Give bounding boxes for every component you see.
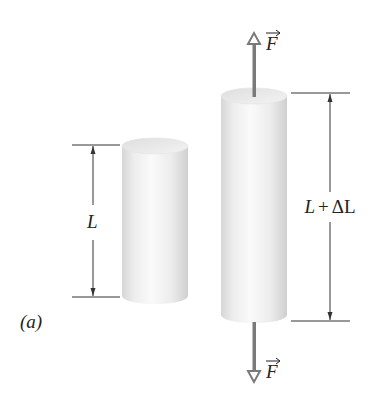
force-arrow-up xyxy=(248,33,260,97)
force-arrow-down xyxy=(248,322,260,382)
svg-text:F: F xyxy=(265,361,278,382)
length-L-plus-delta-L-label: L+ΔL xyxy=(303,196,355,217)
length-L-label: L xyxy=(86,211,98,232)
long-cylinder xyxy=(221,88,287,323)
panel-label: (a) xyxy=(20,311,42,333)
force-label-bottom: F xyxy=(265,358,280,382)
force-label-top: F xyxy=(265,30,280,54)
short-cylinder xyxy=(122,138,188,304)
stretching-cylinder-diagram: L L+ΔL F F (a) xyxy=(0,0,383,406)
svg-text:F: F xyxy=(265,33,278,54)
